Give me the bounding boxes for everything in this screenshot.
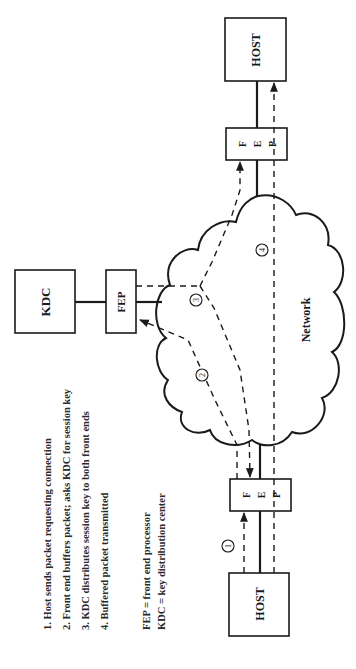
fep-top-letter-p: P [267, 141, 278, 147]
fep-bottom-letter-f: F [241, 492, 252, 498]
step-text-3: 3. KDC distributes session key to both f… [80, 411, 91, 630]
svg-text:3: 3 [192, 298, 201, 302]
step-marker-3: 3 [190, 294, 202, 306]
step-marker-1: 1 [222, 540, 234, 552]
kdc-label: KDC [38, 288, 53, 317]
network-cloud: Network [156, 195, 344, 445]
svg-text:2: 2 [198, 373, 207, 377]
fep-bottom-node: F E P [230, 479, 291, 511]
network-label: Network [299, 297, 313, 342]
step-text-2: 2. Front end buffers packet; asks KDC fo… [61, 388, 72, 630]
legend-kdc: KDC = key distribution center [156, 493, 167, 630]
step-marker-4: 4 [256, 244, 268, 256]
svg-text:1: 1 [224, 544, 233, 548]
steps-list: 1. Host sends packet requesting connecti… [42, 388, 110, 630]
host-bottom-label: HOST [253, 587, 267, 620]
step-text-4: 4. Buffered packet transmitted [99, 492, 110, 630]
host-top-label: HOST [249, 33, 263, 66]
fep-top-node: F E P [226, 128, 287, 160]
kdc-fep-node: FEP [106, 270, 136, 333]
fep-bottom-letter-e: E [256, 491, 267, 498]
host-bottom-node: HOST [229, 573, 289, 636]
legend-fep: FEP = front end processor [141, 512, 152, 630]
abbreviation-legend: FEP = front end processor KDC = key dist… [141, 493, 167, 630]
step-marker-2: 2 [196, 369, 208, 381]
step-text-1: 1. Host sends packet requesting connecti… [42, 438, 53, 630]
svg-text:4: 4 [258, 248, 267, 252]
host-top-node: HOST [225, 18, 286, 81]
fep-bottom-letter-p: P [271, 492, 282, 498]
kdc-fep-label: FEP [115, 291, 127, 312]
fep-top-letter-f: F [237, 141, 248, 147]
kdc-node: KDC [15, 270, 75, 333]
key-distribution-diagram: Network KDC FEP HOST F E P F E P [0, 0, 356, 669]
fep-top-letter-e: E [252, 140, 263, 147]
